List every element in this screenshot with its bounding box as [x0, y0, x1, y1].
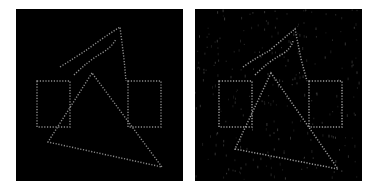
- noise-speck: [232, 105, 233, 107]
- noise-speck: [313, 118, 314, 120]
- noise-speck: [208, 28, 209, 29]
- noise-speck: [300, 76, 301, 79]
- noise-speck: [217, 11, 218, 14]
- noise-speck: [355, 114, 356, 116]
- noise-speck: [325, 32, 326, 33]
- noise-speck: [257, 166, 258, 169]
- noise-speck: [226, 61, 227, 62]
- noise-speck: [357, 10, 358, 11]
- noise-speck: [271, 36, 272, 38]
- noise-speck: [304, 94, 305, 97]
- noise-speck: [313, 157, 314, 159]
- noise-speck: [214, 65, 215, 66]
- noise-speck: [244, 179, 245, 180]
- noise-speck: [355, 58, 356, 59]
- noise-speck: [231, 76, 232, 78]
- noise-speck: [243, 114, 244, 116]
- noise-speck: [307, 167, 308, 168]
- noise-speck: [316, 36, 317, 37]
- noise-speck: [352, 61, 353, 64]
- noise-speck: [295, 77, 296, 80]
- noise-speck: [241, 109, 242, 110]
- noise-speck: [300, 120, 301, 121]
- edge-map-clean-svg: [16, 9, 183, 181]
- noise-speck: [357, 71, 358, 73]
- hook-curve-outline: [243, 29, 307, 81]
- noise-speck: [325, 56, 326, 58]
- noise-speck: [271, 173, 272, 176]
- left-rectangle-outline: [219, 81, 252, 127]
- noise-speck: [335, 160, 336, 163]
- noise-speck: [302, 47, 303, 50]
- noise-speck: [311, 150, 312, 153]
- noise-speck: [211, 45, 212, 48]
- noise-speck: [281, 47, 282, 48]
- noise-speck: [258, 24, 259, 26]
- noise-speck: [316, 28, 317, 31]
- noise-speck: [252, 129, 253, 131]
- noise-speck: [298, 52, 299, 54]
- noise-speck: [345, 43, 346, 46]
- noise-speck: [341, 17, 342, 19]
- noise-speck: [339, 149, 340, 151]
- noise-speck: [251, 27, 252, 29]
- noise-speck: [280, 163, 281, 166]
- noise-speck: [348, 78, 349, 81]
- noise-speck: [332, 111, 333, 112]
- noise-speck: [240, 40, 241, 43]
- noise-speck: [329, 113, 330, 115]
- noise-speck: [352, 65, 353, 67]
- noise-speck: [223, 177, 224, 179]
- noise-speck: [274, 148, 275, 150]
- noise-speck: [224, 18, 225, 21]
- noise-speck: [340, 31, 341, 32]
- noise-speck: [239, 172, 240, 173]
- noise-speck: [268, 73, 269, 75]
- noise-speck: [200, 105, 201, 107]
- noise-speck: [198, 62, 199, 64]
- noise-speck: [335, 14, 336, 15]
- noise-speck: [223, 15, 224, 16]
- noise-speck: [333, 136, 334, 138]
- hook-curve-inner: [74, 39, 116, 75]
- noise-speck: [282, 81, 283, 82]
- noise-speck: [236, 91, 237, 92]
- noise-speck: [316, 167, 317, 168]
- noise-speck: [215, 153, 216, 156]
- noise-speck: [237, 90, 238, 91]
- noise-speck: [354, 27, 355, 29]
- noise-speck: [306, 36, 307, 38]
- noise-speck: [196, 175, 197, 177]
- noise-speck: [296, 74, 297, 75]
- noise-speck: [254, 52, 255, 54]
- noise-speck: [307, 132, 308, 135]
- noise-layer: [195, 9, 360, 180]
- noise-speck: [274, 176, 275, 179]
- noise-speck: [345, 145, 346, 146]
- triangle-outline: [235, 73, 338, 169]
- noise-speck: [209, 34, 210, 35]
- noise-speck: [304, 22, 305, 24]
- noise-speck: [264, 29, 265, 31]
- noise-speck: [290, 137, 291, 140]
- noise-speck: [262, 47, 263, 49]
- noise-speck: [298, 24, 299, 26]
- right-rectangle-outline: [309, 81, 342, 127]
- noise-speck: [293, 33, 294, 35]
- noise-speck: [208, 159, 209, 160]
- noise-speck: [195, 92, 196, 94]
- noise-speck: [276, 104, 277, 105]
- noise-speck: [284, 152, 285, 154]
- noise-speck: [217, 47, 218, 49]
- noise-speck: [223, 140, 224, 143]
- noise-speck: [343, 106, 344, 107]
- noise-speck: [204, 72, 205, 74]
- noise-speck: [217, 40, 218, 43]
- noise-speck: [271, 167, 272, 169]
- noise-speck: [228, 168, 229, 170]
- noise-speck: [353, 97, 354, 98]
- noise-speck: [212, 86, 213, 89]
- noise-speck: [274, 132, 275, 134]
- noise-speck: [223, 144, 224, 146]
- noise-speck: [268, 102, 269, 103]
